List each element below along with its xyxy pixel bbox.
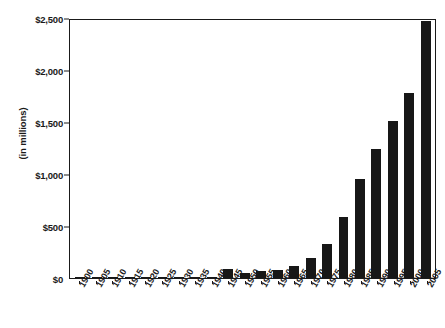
x-slot: 1905 [88, 281, 105, 327]
bar [388, 121, 398, 278]
bar-slot [72, 20, 88, 278]
bar [339, 217, 349, 278]
bar-slot [187, 20, 203, 278]
bar-slot [385, 20, 401, 278]
bar [421, 21, 431, 278]
bar-slot [204, 20, 220, 278]
x-slot: 1975 [319, 281, 336, 327]
plot-area [69, 19, 436, 279]
bar-slot [368, 20, 384, 278]
x-slot: 2000 [402, 281, 419, 327]
bar-slot [319, 20, 335, 278]
bar-slot [237, 20, 253, 278]
bar [371, 149, 381, 278]
bar [355, 179, 365, 278]
x-slot: 1985 [352, 281, 369, 327]
x-slot: 1990 [369, 281, 386, 327]
x-slot: 1900 [71, 281, 88, 327]
y-tick-label: $1,000 [0, 170, 63, 181]
x-slot: 1945 [220, 281, 237, 327]
bar-slot [352, 20, 368, 278]
x-slot: 1930 [170, 281, 187, 327]
x-slot: 1940 [203, 281, 220, 327]
bar-slot [138, 20, 154, 278]
bar-slot [269, 20, 285, 278]
x-axis-tick-labels: 1900190519101915192019251930193519401945… [69, 281, 436, 327]
y-tick-label: $0 [0, 274, 63, 285]
bar-chart: (in millions) $0$500$1,000$1,500$2,000$2… [0, 0, 445, 328]
x-slot: 1925 [154, 281, 171, 327]
bar-slot [302, 20, 318, 278]
y-tick-label: $500 [0, 222, 63, 233]
bar-slot [171, 20, 187, 278]
y-axis-tick-labels: $0$500$1,000$1,500$2,000$2,500 [0, 19, 63, 279]
x-slot: 2005 [418, 281, 435, 327]
y-tick-label: $2,000 [0, 66, 63, 77]
x-slot: 1995 [385, 281, 402, 327]
bar-slot [88, 20, 104, 278]
x-slot: 1950 [236, 281, 253, 327]
x-slot: 1955 [253, 281, 270, 327]
bar-slot [121, 20, 137, 278]
bar-slot [286, 20, 302, 278]
x-slot: 1915 [121, 281, 138, 327]
bar-slot [220, 20, 236, 278]
x-slot: 1965 [286, 281, 303, 327]
x-slot: 1960 [270, 281, 287, 327]
bar [404, 93, 414, 278]
bar-slot [154, 20, 170, 278]
x-slot: 1920 [137, 281, 154, 327]
bar-slot [418, 20, 434, 278]
x-slot: 1980 [336, 281, 353, 327]
x-slot: 1970 [303, 281, 320, 327]
bar-slot [401, 20, 417, 278]
y-tick-label: $2,500 [0, 14, 63, 25]
bar-slot [105, 20, 121, 278]
x-slot: 1910 [104, 281, 121, 327]
y-tick-label: $1,500 [0, 118, 63, 129]
bar-slot [335, 20, 351, 278]
bars-layer [70, 20, 435, 278]
x-slot: 1935 [187, 281, 204, 327]
bar-slot [253, 20, 269, 278]
